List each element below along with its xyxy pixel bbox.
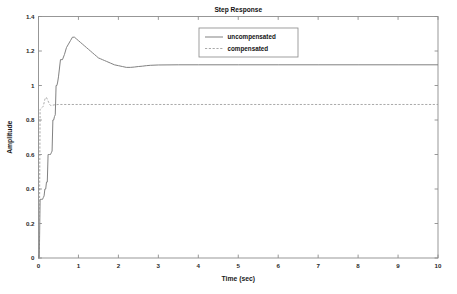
y-tick-label-0.8: 0.8	[26, 116, 35, 123]
legend-label-uncompensated[interactable]: uncompensated	[228, 33, 276, 41]
y-tick-label-0.4: 0.4	[26, 185, 35, 192]
x-tick-label-0: 0	[37, 262, 41, 269]
y-tick-label-0: 0	[31, 254, 35, 261]
x-tick-label-2: 2	[117, 262, 121, 269]
y-tick-label-1.2: 1.2	[26, 47, 35, 54]
x-tick-label-7: 7	[316, 262, 320, 269]
y-tick-label-0.2: 0.2	[26, 220, 35, 227]
y-tick-label-1: 1	[31, 82, 35, 89]
y-axis-title: Amplitude	[6, 120, 14, 153]
x-tick-label-8: 8	[356, 262, 360, 269]
x-tick-label-9: 9	[396, 262, 400, 269]
step-response-figure: 01234567891000.20.40.60.811.21.4Step Res…	[0, 0, 457, 294]
chart-title: Step Response	[214, 6, 262, 14]
plot-canvas: 01234567891000.20.40.60.811.21.4Step Res…	[0, 0, 457, 294]
y-tick-label-0.6: 0.6	[26, 151, 35, 158]
x-tick-label-6: 6	[276, 262, 280, 269]
series-line-uncompensated	[39, 37, 439, 258]
x-tick-label-3: 3	[157, 262, 161, 269]
x-tick-label-10: 10	[435, 262, 442, 269]
y-tick-label-1.4: 1.4	[26, 13, 35, 20]
x-tick-label-4: 4	[197, 262, 201, 269]
legend-label-compensated[interactable]: compensated	[228, 45, 269, 53]
series-line-compensated	[39, 98, 439, 258]
x-axis-title: Time (sec)	[222, 275, 256, 283]
x-tick-label-5: 5	[237, 262, 241, 269]
x-tick-label-1: 1	[77, 262, 81, 269]
